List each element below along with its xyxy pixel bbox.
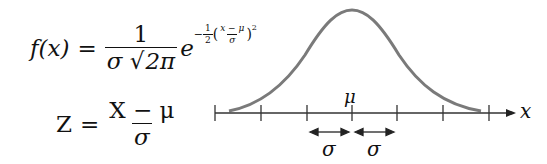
- mean-label: μ: [344, 86, 356, 107]
- sigma-right-label: σ: [367, 137, 381, 161]
- sigma-left-label: σ: [322, 137, 336, 161]
- sigma-right-double-arrow-icon: [355, 129, 394, 136]
- x-axis-label: x: [520, 99, 531, 123]
- normal-curve-diagram: [0, 0, 547, 164]
- sigma-left-double-arrow-icon: [310, 129, 349, 136]
- x-axis-arrowhead-icon: [506, 109, 516, 117]
